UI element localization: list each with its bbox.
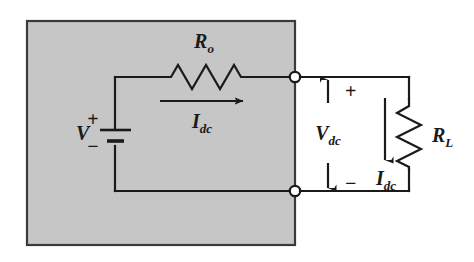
battery-minus-sign: − [87, 135, 98, 157]
resistor-rl-body [397, 99, 421, 169]
shaded-box [27, 21, 295, 245]
terminal-minus-sign: − [345, 172, 356, 194]
circuit-diagram-figure: Ro V + − Idc [0, 0, 474, 262]
battery-plus-sign: + [87, 108, 98, 130]
label-load-current: Idc [375, 167, 396, 193]
terminal-plus-sign: + [345, 80, 356, 102]
label-load-resistor: RL [431, 124, 453, 150]
source-shaded-region [27, 21, 295, 245]
circuit-schematic-canvas: Ro V + − Idc [0, 0, 474, 262]
open-terminal-node-icon-bottom[interactable] [290, 186, 300, 196]
open-terminal-node-icon-top[interactable] [290, 72, 300, 82]
label-terminal-voltage: Vdc [315, 122, 341, 148]
resistor-zigzag-vertical-icon [397, 99, 421, 169]
